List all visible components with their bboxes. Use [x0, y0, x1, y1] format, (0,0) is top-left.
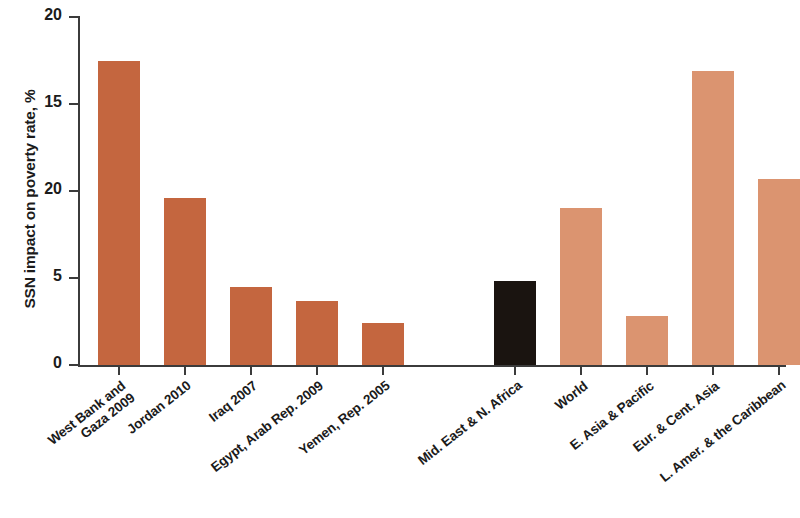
bar: [362, 323, 404, 365]
bar: [560, 208, 602, 365]
x-axis-label: Egypt, Arab Rep. 2009: [208, 378, 326, 475]
x-tick: [184, 365, 186, 375]
bar: [98, 61, 140, 366]
y-tick-label: 15: [44, 93, 62, 111]
y-tick-label: 20: [44, 180, 62, 198]
x-axis-label-line: L. Amer. & the Caribbean: [657, 378, 789, 485]
x-axis-label-line: Mid. East & N. Africa: [415, 378, 525, 468]
bar: [296, 301, 338, 365]
x-tick: [712, 365, 714, 375]
bar: [626, 316, 668, 365]
bar: [494, 281, 536, 365]
x-axis-label: West Bank andGaza 2009: [45, 378, 138, 460]
y-tick: 0: [69, 364, 80, 366]
x-tick: [580, 365, 582, 375]
x-axis-label-line: World: [552, 378, 590, 413]
y-tick: 15: [69, 103, 80, 105]
y-tick-label: 0: [53, 354, 62, 372]
x-axis-label: Mid. East & N. Africa: [415, 378, 525, 468]
x-axis-label: Jordan 2010: [124, 378, 194, 437]
bar: [758, 179, 800, 365]
x-axis-label: Iraq 2007: [206, 378, 260, 425]
x-axis-label-line: Egypt, Arab Rep. 2009: [208, 378, 326, 475]
y-tick: 5: [69, 277, 80, 279]
x-tick: [316, 365, 318, 375]
bar: [692, 71, 734, 365]
x-tick: [514, 365, 516, 375]
bar: [230, 287, 272, 365]
y-tick: 20: [69, 190, 80, 192]
y-axis-title: SSN impact on poverty rate, %: [21, 64, 39, 334]
y-tick: 20: [69, 16, 80, 18]
y-tick-label: 20: [44, 6, 62, 24]
x-axis-label: World: [552, 378, 590, 413]
plot-area: 20152050: [78, 10, 786, 368]
x-axis-label-line: Iraq 2007: [206, 378, 260, 425]
x-tick: [646, 365, 648, 375]
x-tick: [250, 365, 252, 375]
y-tick-label: 5: [53, 267, 62, 285]
x-tick: [118, 365, 120, 375]
x-tick: [382, 365, 384, 375]
x-tick: [778, 365, 780, 375]
bar: [164, 198, 206, 365]
x-axis-label-line: Jordan 2010: [124, 378, 194, 437]
x-axis-label: L. Amer. & the Caribbean: [657, 378, 789, 485]
